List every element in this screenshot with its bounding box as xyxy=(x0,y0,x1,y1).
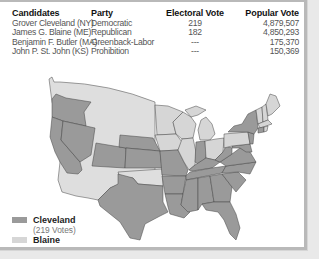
state-new-york xyxy=(228,110,258,134)
state-arkansas xyxy=(162,176,186,194)
legend-item-cleveland: Cleveland xyxy=(12,215,76,225)
results-table: Candidates Party Electoral Vote Popular … xyxy=(12,9,302,57)
table-row: John P. St. John (KS) Prohibition --- 15… xyxy=(12,47,302,57)
legend-label: Cleveland xyxy=(33,215,76,225)
legend-sublabel: (219 Votes) xyxy=(12,225,76,235)
state-connecticut xyxy=(258,127,264,133)
legend-swatch-cleveland xyxy=(12,217,27,223)
party-name: Prohibition xyxy=(91,47,163,57)
legend-label: Blaine xyxy=(33,235,60,245)
legend-swatch-blaine xyxy=(12,237,27,243)
state-kansas xyxy=(125,148,162,168)
candidate-name: John P. St. John (KS) xyxy=(12,47,91,57)
popular-vote: 150,369 xyxy=(227,47,299,57)
state-iowa xyxy=(155,134,182,151)
state-florida xyxy=(202,202,240,240)
election-results-panel: Candidates Party Electoral Vote Popular … xyxy=(0,0,307,250)
state-maine xyxy=(266,94,280,116)
legend-item-blaine: Blaine xyxy=(12,235,76,245)
electoral-vote: --- xyxy=(163,47,227,57)
state-rhode-island xyxy=(264,126,268,132)
map-legend: Cleveland (219 Votes) Blaine xyxy=(12,215,76,245)
